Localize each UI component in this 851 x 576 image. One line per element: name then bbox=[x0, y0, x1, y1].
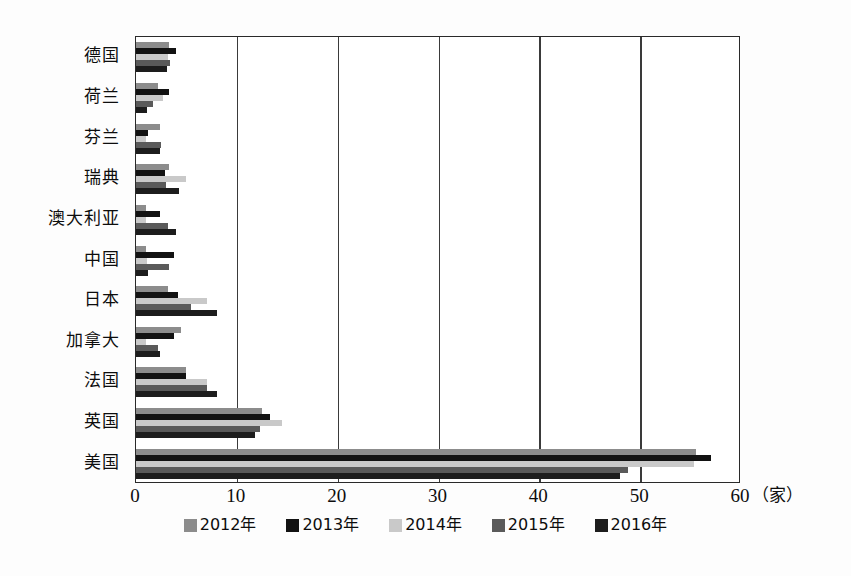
legend-label: 2013年 bbox=[302, 517, 359, 533]
x-tick-label: 50 bbox=[630, 486, 649, 505]
category-label: 中国 bbox=[84, 251, 120, 268]
x-tick-label: 0 bbox=[130, 486, 140, 505]
legend-item[interactable]: 2014年 bbox=[389, 517, 462, 533]
legend-label: 2012年 bbox=[200, 517, 257, 533]
x-tick-label: 40 bbox=[529, 486, 548, 505]
category-label: 法国 bbox=[84, 372, 120, 389]
legend-swatch-icon bbox=[389, 519, 402, 532]
bar bbox=[136, 229, 176, 235]
x-tick-label: 10 bbox=[226, 486, 245, 505]
chart-legend: 2012年2013年2014年2015年2016年 bbox=[0, 517, 851, 533]
value-axis-labels: 0102030405060 bbox=[0, 486, 851, 512]
category-label: 美国 bbox=[84, 454, 120, 471]
bar-group bbox=[136, 83, 739, 113]
bar bbox=[136, 432, 255, 438]
bar bbox=[136, 270, 148, 276]
bar-group bbox=[136, 327, 739, 357]
chart-canvas: 美国英国法国加拿大日本中国澳大利亚瑞典芬兰荷兰德国 0102030405060 … bbox=[0, 0, 851, 576]
category-label: 芬兰 bbox=[84, 129, 120, 146]
bar-group bbox=[136, 408, 739, 438]
category-label: 英国 bbox=[84, 413, 120, 430]
legend-label: 2015年 bbox=[508, 517, 565, 533]
bar bbox=[136, 351, 160, 357]
bar bbox=[136, 107, 147, 113]
plot-area bbox=[135, 36, 740, 483]
bar bbox=[136, 188, 179, 194]
bar-group bbox=[136, 367, 739, 397]
legend-label: 2014年 bbox=[405, 517, 462, 533]
legend-swatch-icon bbox=[184, 519, 197, 532]
x-tick-label: 20 bbox=[327, 486, 346, 505]
category-label: 日本 bbox=[84, 291, 120, 308]
bar-group bbox=[136, 42, 739, 72]
legend-swatch-icon bbox=[595, 519, 608, 532]
bar bbox=[136, 148, 160, 154]
bar-group bbox=[136, 124, 739, 154]
legend-label: 2016年 bbox=[611, 517, 668, 533]
category-label: 荷兰 bbox=[84, 88, 120, 105]
bar bbox=[136, 310, 217, 316]
category-label: 加拿大 bbox=[66, 332, 120, 349]
category-label: 德国 bbox=[84, 47, 120, 64]
bar-group bbox=[136, 205, 739, 235]
legend-swatch-icon bbox=[492, 519, 505, 532]
bar-group bbox=[136, 286, 739, 316]
category-label: 澳大利亚 bbox=[48, 210, 120, 227]
x-tick-label: 30 bbox=[428, 486, 447, 505]
bars-layer bbox=[136, 37, 739, 482]
axis-unit-label: （家） bbox=[752, 486, 803, 505]
category-axis-labels: 美国英国法国加拿大日本中国澳大利亚瑞典芬兰荷兰德国 bbox=[0, 36, 128, 483]
legend-item[interactable]: 2016年 bbox=[595, 517, 668, 533]
bar-group bbox=[136, 449, 739, 479]
legend-item[interactable]: 2012年 bbox=[184, 517, 257, 533]
bar bbox=[136, 473, 620, 479]
bar-group bbox=[136, 246, 739, 276]
x-tick-label: 60 bbox=[731, 486, 750, 505]
bar-group bbox=[136, 164, 739, 194]
legend-swatch-icon bbox=[286, 519, 299, 532]
legend-item[interactable]: 2013年 bbox=[286, 517, 359, 533]
bar bbox=[136, 391, 217, 397]
category-label: 瑞典 bbox=[84, 169, 120, 186]
bar bbox=[136, 66, 167, 72]
legend-item[interactable]: 2015年 bbox=[492, 517, 565, 533]
